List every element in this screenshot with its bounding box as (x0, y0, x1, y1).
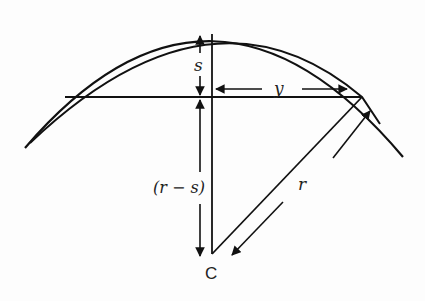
label-y: y (273, 78, 284, 98)
radius-line (212, 97, 362, 254)
label-r: r (298, 174, 307, 194)
r-arrow-down (232, 202, 283, 255)
label-s: s (194, 55, 203, 75)
diagram-svg: s y (r − s) r C (0, 0, 425, 301)
inner-arc (30, 43, 380, 143)
r-arrow-up (333, 111, 370, 158)
label-center: C (205, 264, 217, 283)
sagitta-diagram: s y (r − s) r C (0, 0, 425, 301)
label-r-minus-s: (r − s) (153, 178, 205, 197)
